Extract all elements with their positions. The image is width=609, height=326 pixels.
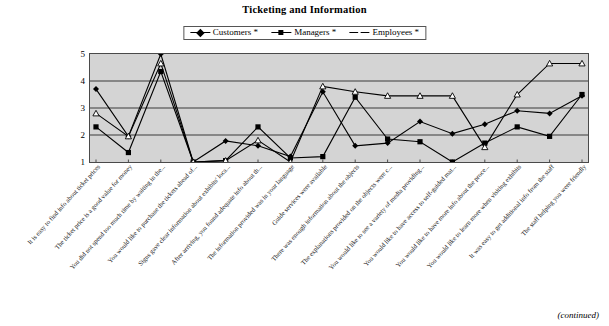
series-marker-managers-13 (515, 124, 520, 129)
series-marker-customers-5 (255, 143, 261, 149)
chart-title: Ticketing and Information (0, 4, 609, 15)
x-axis-label-7: Guide services were available (270, 163, 328, 226)
plot-svg (90, 54, 588, 162)
series-marker-customers-12 (482, 121, 488, 127)
series-marker-managers-8 (353, 95, 358, 100)
series-marker-customers-13 (514, 108, 520, 114)
filled-diamond-marker-icon (190, 28, 210, 37)
chart-container: Ticketing and Information Customers * Ma… (0, 0, 609, 326)
legend-item-customers: Customers * (190, 28, 258, 37)
open-triangle-marker-icon (349, 28, 369, 37)
series-marker-managers-0 (93, 124, 98, 129)
x-axis-labels: It is easy to find info about ticket pri… (0, 163, 609, 303)
chart-legend: Customers * Managers * Employees * (183, 26, 426, 40)
continued-note: (continued) (558, 310, 599, 320)
legend-label-managers: Managers * (294, 28, 336, 37)
filled-square-marker-icon (271, 28, 291, 37)
series-marker-customers-8 (352, 143, 358, 149)
y-tick-label-4: 4 (81, 77, 86, 86)
series-marker-customers-14 (547, 110, 553, 116)
series-line-employees (96, 63, 582, 162)
series-marker-managers-7 (320, 154, 325, 159)
series-marker-managers-11 (450, 159, 455, 162)
y-tick-label-2: 2 (81, 131, 86, 140)
plot-area (89, 53, 589, 163)
legend-label-employees: Employees * (372, 28, 419, 37)
y-tick-label-3: 3 (81, 104, 86, 113)
series-marker-managers-5 (255, 124, 260, 129)
legend-item-managers: Managers * (271, 28, 336, 37)
series-marker-customers-11 (449, 131, 455, 137)
series-marker-employees-0 (93, 110, 99, 116)
series-marker-managers-1 (126, 150, 131, 155)
series-marker-employees-7 (320, 83, 326, 89)
legend-label-customers: Customers * (213, 28, 258, 37)
legend-item-employees: Employees * (349, 28, 419, 37)
series-marker-managers-9 (385, 136, 390, 141)
y-tick-label-5: 5 (81, 50, 86, 59)
series-marker-managers-15 (579, 92, 584, 97)
series-marker-employees-5 (255, 137, 261, 143)
series-line-managers (96, 72, 582, 162)
series-marker-managers-10 (417, 139, 422, 144)
series-marker-customers-2 (158, 54, 164, 57)
series-marker-managers-14 (547, 134, 552, 139)
y-axis-labels: 54321 (70, 53, 85, 163)
series-marker-customers-10 (417, 119, 423, 125)
series-marker-customers-4 (223, 138, 229, 144)
x-axis-label-15: The staff helping you were friendly (519, 163, 587, 237)
